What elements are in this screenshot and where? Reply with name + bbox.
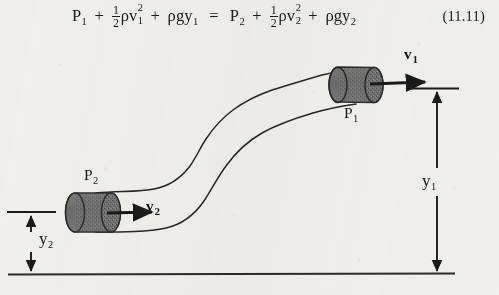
height-lower-symbol: y [39, 229, 48, 248]
pipe-flow-diagram [0, 0, 499, 295]
pressure-lower-symbol: P [84, 166, 93, 183]
pressure-upper-subscript: 1 [353, 113, 358, 124]
velocity-label-lower: v2 [146, 199, 159, 214]
height-upper-symbol: y [422, 171, 431, 190]
pressure-upper-symbol: P [344, 104, 353, 121]
pipe-wall-top [96, 69, 356, 193]
height-upper-subscript: 1 [431, 181, 436, 192]
height-label-upper: y1 [422, 172, 436, 189]
pressure-label-upper: P1 [344, 105, 358, 121]
bernoulli-figure: P1 + 1 2 ρv21 + ρgy1 = P2 + 1 2 ρv22 + ρ… [0, 0, 499, 295]
height-lower-subscript: 2 [48, 239, 53, 250]
velocity-lower-symbol: v [146, 198, 154, 214]
pressure-lower-subscript: 2 [93, 175, 98, 186]
datum-baseline [8, 274, 455, 275]
velocity-upper-symbol: v [404, 46, 412, 62]
velocity-upper-subscript: 1 [413, 53, 419, 65]
height-label-lower: y2 [39, 230, 53, 247]
pipe-outline [96, 69, 356, 232]
velocity-lower-subscript: 2 [155, 205, 161, 217]
pressure-label-lower: P2 [84, 167, 98, 183]
velocity-arrow-upper [370, 82, 425, 84]
velocity-label-upper: v1 [404, 47, 417, 62]
